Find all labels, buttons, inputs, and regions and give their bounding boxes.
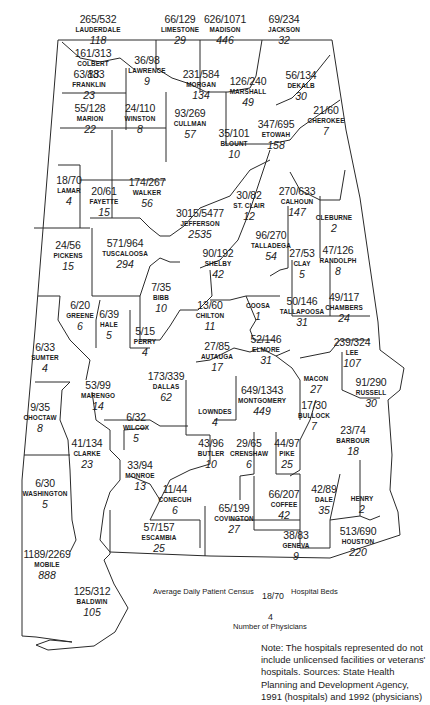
county-label-macon: MACON27: [304, 374, 329, 395]
physician-count: 15: [53, 261, 82, 272]
physician-count: 7: [307, 126, 344, 137]
county-name: GENEVA: [282, 543, 309, 549]
county-label-bibb: 7/35BIBB10: [151, 282, 171, 313]
county-name: AUTAUGA: [201, 354, 233, 360]
census-beds-ratio: 7/35: [151, 282, 171, 293]
physician-count: 9: [282, 551, 309, 562]
county-label-st-clair: 30/82ST. CLAIR12: [233, 190, 264, 221]
census-beds-ratio: 43/96: [198, 438, 225, 449]
census-beds-ratio: 174/267: [129, 177, 166, 188]
county-label-cherokee: 21/60CHEROKEE7: [307, 105, 344, 136]
physician-count: 42: [203, 269, 234, 280]
county-label-winston: 24/110WINSTON8: [125, 103, 156, 134]
census-beds-ratio: 50/146: [280, 296, 325, 307]
physician-count: 56: [129, 198, 166, 209]
legend-beds-label: Hospital Beds: [291, 587, 338, 596]
physician-count: 107: [334, 358, 371, 369]
county-name: CLAY: [289, 261, 314, 267]
census-beds-ratio: 1189/2269: [23, 549, 70, 560]
physician-count: 158: [258, 140, 295, 151]
census-beds-ratio: 57/157: [142, 522, 177, 533]
physician-count: 54: [251, 251, 291, 262]
county-name: CRENSHAW: [230, 451, 268, 457]
county-name: PIKE: [274, 451, 299, 457]
county-label-covington: 65/199COVINGTON27: [214, 503, 253, 534]
county-label-walker: 174/267WALKER56: [129, 177, 166, 208]
census-beds-ratio: 66/207: [269, 489, 300, 500]
census-beds-ratio: 96/270: [251, 230, 291, 241]
census-beds-ratio: 6/30: [23, 478, 68, 489]
county-label-blount: 35/101BLOUNT10: [219, 128, 250, 159]
county-label-dale: 42/89DALE35: [311, 484, 336, 515]
county-label-elmore: 52/146ELMORE31: [251, 334, 282, 365]
county-name: WALKER: [129, 190, 166, 196]
census-beds-ratio: 18/70: [56, 175, 81, 186]
county-label-sumter: 6/33SUMTER4: [31, 342, 59, 373]
physician-count: 5: [99, 330, 119, 341]
physician-count: 23: [72, 90, 105, 101]
county-label-escambia: 57/157ESCAMBIA25: [142, 522, 177, 553]
county-name: BULLOCK: [298, 413, 330, 419]
county-name: DEKALB: [286, 83, 317, 89]
county-name: JEFFERSON: [176, 221, 224, 227]
physician-count: 30: [286, 91, 317, 102]
census-beds-ratio: 91/290: [356, 377, 387, 388]
physician-count: 57: [174, 129, 206, 140]
county-label-chambers: 49/117CHAMBERS24: [325, 292, 363, 323]
county-label-shelby: 90/192SHELBY42: [203, 248, 234, 279]
census-beds-ratio: 36/98: [128, 55, 165, 66]
census-beds-ratio: 649/1343: [238, 385, 286, 396]
county-name: DALE: [311, 497, 336, 503]
census-beds-ratio: 9/35: [23, 402, 56, 413]
census-beds-ratio: 231/584: [183, 69, 220, 80]
census-beds-ratio: 6/39: [99, 309, 119, 320]
physician-count: 10: [151, 303, 171, 314]
county-label-limestone: 66/129LIMESTONE29: [161, 14, 199, 45]
physician-count: 4: [134, 347, 156, 358]
source-note: Note: The hospitals represented do not i…: [261, 642, 430, 703]
census-beds-ratio: 6/33: [31, 342, 59, 353]
census-beds-ratio: 29/65: [230, 438, 268, 449]
county-name: HALE: [99, 322, 119, 328]
county-label-dekalb: 56/134DEKALB30: [286, 70, 317, 101]
county-label-cleburne: CLEBURNE2: [316, 213, 352, 234]
census-beds-ratio: 52/146: [251, 334, 282, 345]
physician-count: 9: [128, 76, 165, 87]
physician-count: 62: [148, 392, 185, 403]
county-label-cullman: 93/269CULLMAN57: [174, 108, 206, 139]
county-name: JACKSON: [268, 27, 300, 33]
physician-count: 8: [319, 266, 356, 277]
physician-count: 30: [356, 398, 387, 409]
county-label-marshall: 126/240MARSHALL49: [230, 76, 267, 107]
county-name: CULLMAN: [174, 121, 206, 127]
physician-count: 27: [214, 524, 253, 535]
physician-count: 22: [75, 124, 106, 135]
county-name: MORGAN: [183, 82, 220, 88]
census-beds-ratio: 6/32: [123, 412, 149, 423]
physician-count: 5: [123, 433, 149, 444]
census-beds-ratio: 5/15: [134, 326, 156, 337]
physician-count: 449: [238, 406, 286, 417]
county-name: ETOWAH: [258, 132, 295, 138]
county-name: TUSCALOOSA: [102, 251, 148, 257]
census-beds-ratio: 35/101: [219, 128, 250, 139]
county-name: ESCAMBIA: [142, 535, 177, 541]
physician-count: 25: [274, 459, 299, 470]
county-label-jackson: 69/234JACKSON32: [268, 14, 300, 45]
county-label-henry: HENRY2: [351, 494, 374, 515]
physician-count: 18: [336, 446, 369, 457]
county-name: SUMTER: [31, 355, 59, 361]
county-label-russell: 91/290RUSSELL30: [356, 377, 387, 408]
county-name: HENRY: [351, 496, 374, 502]
county-name: MADISON: [204, 27, 246, 33]
physician-count: 10: [198, 459, 225, 470]
physician-count: 8: [125, 124, 156, 135]
census-beds-ratio: 626/1071: [204, 14, 246, 25]
physician-count: 27: [304, 384, 329, 395]
county-name: PICKENS: [53, 253, 82, 259]
county-name: GREENE: [66, 313, 94, 319]
county-name: CALHOUN: [279, 199, 316, 205]
county-label-wilcox: 6/32WILCOX5: [123, 412, 149, 443]
census-beds-ratio: 23/74: [336, 425, 369, 436]
county-name: CHAMBERS: [325, 305, 363, 311]
